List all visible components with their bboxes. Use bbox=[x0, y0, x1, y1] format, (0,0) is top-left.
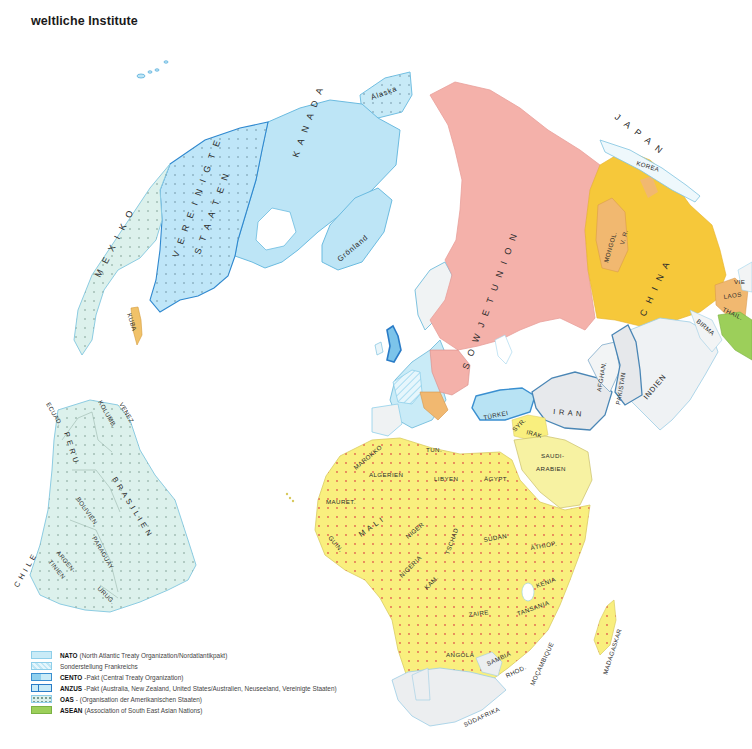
legend-abbr: ASEAN bbox=[60, 707, 82, 714]
legend-swatch-asean bbox=[31, 706, 52, 714]
legend-text: -Pakt (Australia, New Zealand, United St… bbox=[84, 685, 337, 692]
legend-abbr: OAS bbox=[60, 696, 74, 703]
legend-text: (North Atlantic Treaty Organization/Nord… bbox=[80, 652, 228, 659]
region-iberia bbox=[372, 404, 402, 436]
legend-abbr: NATO bbox=[60, 652, 78, 659]
svg-text:ARABIEN: ARABIEN bbox=[536, 465, 566, 472]
region-grossbritannien bbox=[387, 326, 401, 362]
svg-text:TUN.: TUN. bbox=[426, 446, 442, 453]
map-legend: NATO (North Atlantic Treaty Organization… bbox=[31, 650, 337, 716]
legend-text: Sonderstellung Frankreichs bbox=[60, 663, 138, 670]
svg-text:LIBYEN: LIBYEN bbox=[434, 475, 458, 482]
aleutian-islands bbox=[137, 61, 168, 78]
legend-item-anzus: ANZUS -Pakt (Australia, New Zealand, Uni… bbox=[31, 683, 337, 693]
legend-item-nato: NATO (North Atlantic Treaty Organization… bbox=[31, 650, 337, 660]
legend-swatch-nato bbox=[31, 651, 52, 659]
legend-text: (Association of South East Asian Nations… bbox=[84, 707, 202, 714]
legend-swatch-anzus bbox=[31, 684, 52, 692]
legend-item-france: Sonderstellung Frankreichs bbox=[31, 661, 337, 671]
svg-text:SAUDI-: SAUDI- bbox=[541, 452, 564, 459]
legend-abbr: ANZUS bbox=[60, 685, 82, 692]
legend-swatch-france bbox=[31, 662, 52, 670]
legend-item-oas: OAS - (Organisation der Amerikanischen S… bbox=[31, 694, 337, 704]
legend-abbr: CENTO bbox=[60, 674, 82, 681]
world-map: Alaska K A N A D A V E R E I N I G T E S… bbox=[0, 0, 752, 749]
legend-item-cento: CENTO -Pakt (Central Treaty Organization… bbox=[31, 672, 337, 682]
legend-text: -Pakt (Central Treaty Organization) bbox=[84, 674, 183, 681]
legend-swatch-oas bbox=[31, 695, 52, 703]
svg-text:MAURET.: MAURET. bbox=[326, 498, 356, 505]
cape-verde-islands bbox=[286, 493, 294, 502]
legend-text: - (Organisation der Amerikanischen Staat… bbox=[76, 696, 202, 703]
region-sowjetunion bbox=[430, 82, 600, 350]
svg-text:ANGOLA: ANGOLA bbox=[446, 651, 475, 658]
svg-text:ALGERIEN: ALGERIEN bbox=[369, 471, 404, 478]
region-suedafrika bbox=[392, 668, 506, 726]
svg-text:VIE: VIE bbox=[734, 278, 745, 285]
legend-swatch-cento bbox=[31, 673, 52, 681]
region-thailand bbox=[718, 312, 752, 360]
svg-text:ÄGYPT.: ÄGYPT. bbox=[484, 475, 508, 482]
legend-item-asean: ASEAN (Association of South East Asian N… bbox=[31, 705, 337, 715]
